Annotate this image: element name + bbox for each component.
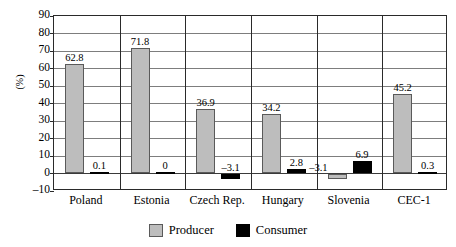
legend-item: Producer	[149, 223, 214, 237]
y-axis-tick-label: 10	[26, 149, 50, 161]
bar-value-label: 0	[148, 160, 183, 171]
y-axis-tick-label: 40	[26, 97, 50, 109]
bar-value-label: 45.2	[385, 82, 420, 93]
chart-legend: ProducerConsumer	[0, 219, 456, 241]
y-axis-tick	[50, 33, 54, 34]
consumer-swatch	[236, 224, 250, 237]
y-axis-tick	[50, 121, 54, 122]
gridline	[54, 103, 446, 104]
x-axis-tick-labels: PolandEstoniaCzech Rep.HungarySloveniaCE…	[53, 193, 447, 213]
y-axis-title: (%)	[14, 62, 25, 102]
bar-consumer	[90, 172, 109, 174]
y-axis-tick-label: 0	[26, 167, 50, 179]
bar-producer	[65, 64, 84, 174]
y-axis-tick	[50, 51, 54, 52]
bar-producer	[131, 48, 150, 174]
x-axis-tick-label: CEC-1	[381, 193, 447, 207]
bar-value-label: 62.8	[57, 52, 92, 63]
bar-chart: (%) 9080706050403020100–10 62.80.171.803…	[0, 0, 456, 247]
category-separator	[185, 16, 186, 189]
y-axis-tick	[50, 191, 54, 192]
category-separator	[251, 16, 252, 189]
bar-value-label: 34.2	[254, 102, 289, 113]
bar-producer	[328, 174, 347, 179]
category-separator	[120, 16, 121, 189]
y-axis-tick	[50, 16, 54, 17]
y-axis-tick-labels: 9080706050403020100–10	[25, 0, 50, 247]
bar-consumer	[353, 161, 372, 173]
y-axis-tick-label: 80	[26, 27, 50, 39]
y-axis-tick-label: 70	[26, 44, 50, 56]
x-axis-tick-label: Estonia	[119, 193, 185, 207]
category-separator	[382, 16, 383, 189]
y-axis-tick-label: 60	[26, 62, 50, 74]
y-axis-tick-label: 90	[26, 9, 50, 21]
legend-label: Producer	[169, 223, 214, 237]
x-axis-tick-label: Slovenia	[316, 193, 382, 207]
producer-swatch	[149, 224, 163, 237]
gridline	[54, 138, 446, 139]
bar-value-label: –3.1	[304, 162, 328, 173]
gridline	[54, 121, 446, 122]
y-axis-tick-label: 50	[26, 79, 50, 91]
bar-value-label: 0.3	[410, 160, 445, 171]
y-axis-tick	[50, 156, 54, 157]
plot-area: 62.80.171.8036.9–3.134.22.8–3.16.945.20.…	[53, 15, 447, 190]
y-axis-tick	[50, 68, 54, 69]
x-axis-tick-label: Czech Rep.	[184, 193, 250, 207]
gridline	[54, 68, 446, 69]
legend-item: Consumer	[236, 223, 307, 237]
legend-label: Consumer	[256, 223, 307, 237]
gridline	[54, 33, 446, 34]
x-axis-tick-label: Hungary	[250, 193, 316, 207]
gridline	[54, 51, 446, 52]
bar-value-label: 36.9	[188, 97, 223, 108]
zero-axis-line	[54, 173, 446, 174]
y-axis-tick	[50, 103, 54, 104]
bar-value-label: 71.8	[123, 36, 158, 47]
bar-value-label: 6.9	[345, 149, 380, 160]
bar-consumer	[156, 172, 175, 174]
bar-value-label: 0.1	[82, 160, 117, 171]
y-axis-tick-label: –10	[26, 184, 50, 196]
bar-consumer	[221, 174, 240, 179]
y-axis-tick-label: 20	[26, 132, 50, 144]
bar-value-label: –3.1	[213, 162, 248, 173]
y-axis-tick-label: 30	[26, 114, 50, 126]
x-axis-tick-label: Poland	[53, 193, 119, 207]
y-axis-tick	[50, 86, 54, 87]
bar-consumer	[418, 172, 437, 174]
y-axis-tick	[50, 138, 54, 139]
gridline	[54, 156, 446, 157]
